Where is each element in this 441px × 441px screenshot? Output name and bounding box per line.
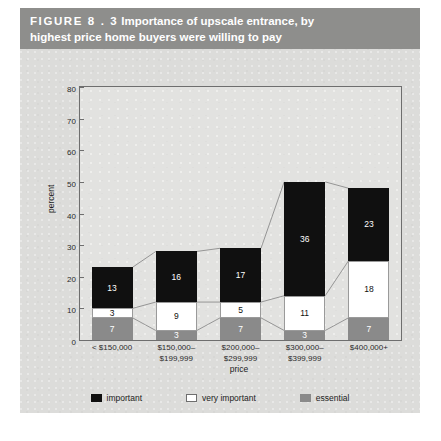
y-axis-tick-mark — [80, 150, 84, 151]
bar-segment-important[interactable]: 16 — [156, 251, 197, 302]
connector-line — [197, 318, 220, 331]
legend-swatch-essential — [300, 394, 311, 402]
x-axis-label: price — [230, 364, 248, 374]
y-axis-tick-mark — [80, 340, 84, 341]
y-axis-label: percent — [46, 185, 56, 213]
x-axis-tick-label: $300,000–$399,999 — [286, 343, 324, 364]
y-axis-tick-label: 70 — [67, 117, 80, 126]
x-axis-tick-line: $300,000– — [286, 343, 324, 354]
y-axis-tick-label: 80 — [67, 85, 80, 94]
connector-line — [325, 318, 348, 331]
y-axis-tick-label: 20 — [67, 275, 80, 284]
x-axis-tick-label: $150,000–$199,999 — [157, 343, 195, 364]
figure-container: FIGURE 8 . 3Importance of upscale entran… — [20, 8, 420, 413]
y-axis-tick-mark — [80, 214, 84, 215]
x-axis-tick-label: < $150,000 — [92, 343, 132, 354]
x-axis-tick-line: $299,999 — [222, 354, 260, 365]
x-axis-tick-line: $399,999 — [286, 354, 324, 365]
x-axis-tick-label: $200,000–$299,999 — [222, 343, 260, 364]
stacked-bar[interactable]: 31136 — [284, 87, 325, 340]
figure-title-line1: FIGURE 8 . 3Importance of upscale entran… — [30, 13, 410, 29]
x-axis-tick-line: $150,000– — [157, 343, 195, 354]
chart-legend: importantvery importantessential — [20, 393, 420, 403]
bar-segment-very-important[interactable]: 11 — [284, 296, 325, 331]
y-axis-tick: 80 — [67, 78, 80, 96]
bar-segment-very-important[interactable]: 9 — [156, 302, 197, 330]
y-axis-tick-label: 40 — [67, 212, 80, 221]
plot-area: 01020304050607080 7313391675173113671823… — [79, 86, 402, 341]
legend-label: very important — [202, 393, 256, 403]
y-axis-tick-label: 50 — [67, 180, 80, 189]
x-axis-tick-line: $200,000– — [222, 343, 260, 354]
bar-segment-essential[interactable]: 3 — [156, 331, 197, 340]
connector-line — [197, 248, 220, 251]
y-axis-tick: 70 — [67, 110, 80, 128]
figure-title-line2: highest price home buyers were willing t… — [30, 29, 410, 45]
bar-segment-important[interactable]: 36 — [284, 182, 325, 296]
stacked-bar[interactable]: 7313 — [92, 87, 133, 340]
stacked-bar[interactable]: 71823 — [348, 87, 389, 340]
bar-segment-very-important[interactable]: 3 — [92, 308, 133, 317]
connector-line — [133, 302, 156, 308]
y-axis-tick: 30 — [67, 236, 80, 254]
y-axis-tick-mark — [80, 182, 84, 183]
legend-swatch-very-important — [186, 394, 197, 402]
connector-line — [325, 182, 348, 188]
bar-segment-essential[interactable]: 7 — [92, 318, 133, 340]
x-axis-tick-line: $199,999 — [157, 354, 195, 365]
connector-line — [261, 182, 284, 248]
connector-line — [261, 296, 284, 302]
legend-label: important — [107, 393, 142, 403]
legend-item[interactable]: essential — [300, 393, 350, 403]
legend-label: essential — [316, 393, 350, 403]
bar-segment-essential[interactable]: 7 — [348, 318, 389, 340]
bar-segment-important[interactable]: 13 — [92, 267, 133, 308]
x-axis-tick-line: $400,000+ — [350, 343, 388, 354]
bar-segment-essential[interactable]: 7 — [220, 318, 261, 340]
x-axis-tick-line: < $150,000 — [92, 343, 132, 354]
connector-line — [133, 251, 156, 267]
stacked-bar[interactable]: 3916 — [156, 87, 197, 340]
connector-line — [261, 318, 284, 331]
figure-title-banner: FIGURE 8 . 3Importance of upscale entran… — [20, 8, 420, 49]
figure-number: FIGURE 8 . 3 — [30, 15, 118, 27]
bar-segment-very-important[interactable]: 18 — [348, 261, 389, 318]
legend-item[interactable]: important — [91, 393, 142, 403]
figure-title-text1: Importance of upscale entrance, by — [121, 15, 314, 27]
y-axis-tick: 10 — [67, 299, 80, 317]
bar-segment-important[interactable]: 23 — [348, 188, 389, 261]
bar-segment-important[interactable]: 17 — [220, 248, 261, 302]
y-axis-tick-mark — [80, 245, 84, 246]
y-axis-tick: 40 — [67, 205, 80, 223]
y-axis-tick: 20 — [67, 268, 80, 286]
connector-line — [325, 261, 348, 296]
legend-item[interactable]: very important — [186, 393, 256, 403]
connector-line — [133, 318, 156, 331]
y-axis-tick-label: 0 — [72, 338, 80, 347]
y-axis-tick: 50 — [67, 173, 80, 191]
y-axis-tick-label: 30 — [67, 243, 80, 252]
y-axis-tick: 0 — [72, 331, 80, 349]
y-axis-tick-mark — [80, 308, 84, 309]
bar-segment-essential[interactable]: 3 — [284, 331, 325, 340]
y-axis-tick-mark — [80, 277, 84, 278]
y-axis-tick-mark — [80, 119, 84, 120]
x-axis-tick-label: $400,000+ — [350, 343, 388, 354]
y-axis-tick: 60 — [67, 141, 80, 159]
y-axis-tick-label: 60 — [67, 148, 80, 157]
bar-segment-very-important[interactable]: 5 — [220, 302, 261, 318]
y-axis-tick-mark — [80, 87, 84, 88]
legend-swatch-important — [91, 394, 102, 402]
y-axis-tick-label: 10 — [67, 306, 80, 315]
stacked-bar[interactable]: 7517 — [220, 87, 261, 340]
